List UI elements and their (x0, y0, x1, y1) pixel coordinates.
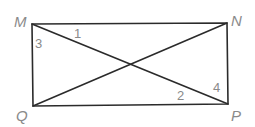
angle-label-1: 1 (74, 26, 81, 41)
vertex-label-p: P (231, 107, 241, 124)
angle-label-2: 2 (177, 88, 184, 103)
angle-label-3: 3 (35, 36, 42, 51)
vertex-label-q: Q (16, 107, 28, 124)
rectangle-diagram: M N P Q 1 3 2 4 (0, 0, 255, 127)
vertex-label-n: N (231, 12, 242, 29)
vertex-label-m: M (14, 13, 27, 30)
angle-label-4: 4 (213, 80, 220, 95)
